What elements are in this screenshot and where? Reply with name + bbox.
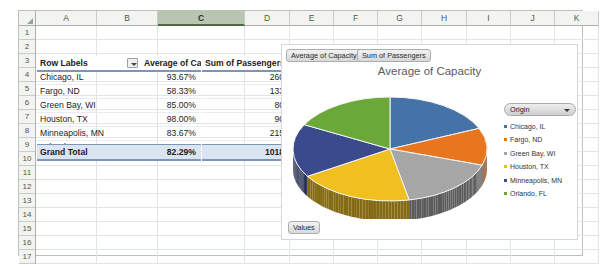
pivot-chart[interactable]: Average of Capacity Sum of Passengers Av… <box>281 44 578 240</box>
row-header-9[interactable]: 9 <box>19 138 36 152</box>
grid-cell[interactable] <box>378 250 422 264</box>
grid-cell[interactable] <box>97 40 158 54</box>
pie-slice-side <box>463 182 465 203</box>
column-header-a[interactable]: A <box>36 11 97 26</box>
grid-cell[interactable] <box>158 208 245 222</box>
pie-slice-side <box>309 178 311 199</box>
grid-cell[interactable] <box>245 250 290 264</box>
pie-slice-side <box>480 166 481 187</box>
legend-swatch-icon <box>504 152 507 155</box>
row-header-14[interactable]: 14 <box>19 208 36 222</box>
legend-item[interactable]: Minneapolis, MN <box>504 177 576 184</box>
pie-chart-graphic[interactable] <box>288 87 493 219</box>
column-header-j[interactable]: J <box>511 11 555 26</box>
grid-cell[interactable] <box>97 194 158 208</box>
grid-cell[interactable] <box>97 166 158 180</box>
column-header-h[interactable]: H <box>422 11 467 26</box>
field-button-average-capacity[interactable]: Average of Capacity <box>286 49 362 62</box>
row-header-4[interactable]: 4 <box>19 68 36 82</box>
pie-slice-side <box>316 183 318 204</box>
grid-cell[interactable] <box>158 26 245 40</box>
pie-slice-side <box>318 184 320 205</box>
legend-field-origin[interactable]: Origin <box>504 103 576 116</box>
row-header-6[interactable]: 6 <box>19 96 36 110</box>
column-header-i[interactable]: I <box>467 11 511 26</box>
grid-cell[interactable] <box>555 26 599 40</box>
legend-item[interactable]: Green Bay, WI <box>504 150 576 157</box>
row-header-2[interactable]: 2 <box>19 40 36 54</box>
column-header-f[interactable]: F <box>334 11 378 26</box>
row-header-3[interactable]: 3 <box>19 54 36 68</box>
grid-cell[interactable] <box>97 236 158 250</box>
grid-cell[interactable] <box>158 180 245 194</box>
pie-slice-side <box>389 201 392 219</box>
grid-cell[interactable] <box>36 250 97 264</box>
legend-item[interactable]: Chicago, IL <box>504 123 576 130</box>
row-header-5[interactable]: 5 <box>19 82 36 96</box>
grid-cell[interactable] <box>158 166 245 180</box>
grid-cell[interactable] <box>158 250 245 264</box>
grid-cell[interactable] <box>36 40 97 54</box>
grid-cell[interactable] <box>36 26 97 40</box>
grid-cell[interactable] <box>36 194 97 208</box>
pie-slice-side <box>312 180 314 201</box>
grid-cell[interactable] <box>97 180 158 194</box>
grid-cell[interactable] <box>467 250 511 264</box>
grid-cell[interactable] <box>245 26 290 40</box>
grid-cell[interactable] <box>290 26 334 40</box>
column-header-b[interactable]: B <box>97 11 158 26</box>
row-header-11[interactable]: 11 <box>19 166 36 180</box>
grid-cell[interactable] <box>378 26 422 40</box>
pie-slice-side <box>298 165 299 186</box>
grid-cell[interactable] <box>158 222 245 236</box>
column-header-k[interactable]: K <box>555 11 599 26</box>
legend-item-label: Orlando, FL <box>510 190 547 197</box>
row-header-17[interactable]: 17 <box>19 250 36 264</box>
grid-cell[interactable] <box>290 250 334 264</box>
values-button[interactable]: Values <box>288 221 320 234</box>
grid-cell[interactable] <box>36 222 97 236</box>
grid-cell[interactable] <box>334 250 378 264</box>
row-header-15[interactable]: 15 <box>19 222 36 236</box>
grid-cell[interactable] <box>97 26 158 40</box>
row-header-1[interactable]: 1 <box>19 26 36 40</box>
column-header-c[interactable]: C <box>158 11 245 26</box>
grid-cell[interactable] <box>334 26 378 40</box>
pie-slice-side <box>465 181 467 202</box>
row-header-8[interactable]: 8 <box>19 124 36 138</box>
chart-legend[interactable]: Origin Chicago, ILFargo, NDGreen Bay, WI… <box>504 103 576 197</box>
grid-cell[interactable] <box>511 250 555 264</box>
grid-cell[interactable] <box>555 250 599 264</box>
pie-slice-side <box>302 170 303 191</box>
column-header-d[interactable]: D <box>245 11 290 26</box>
grid-cell[interactable] <box>467 26 511 40</box>
row-header-16[interactable]: 16 <box>19 236 36 250</box>
column-header-g[interactable]: G <box>378 11 422 26</box>
field-button-sum-passengers[interactable]: Sum of Passengers <box>357 49 431 62</box>
grid-cell[interactable] <box>158 194 245 208</box>
grid-cell[interactable] <box>36 236 97 250</box>
row-header-10[interactable]: 10 <box>19 152 36 166</box>
grid-cell[interactable] <box>158 40 245 54</box>
filter-dropdown-icon[interactable] <box>127 58 138 68</box>
grid-cell[interactable] <box>97 250 158 264</box>
grid-cell[interactable] <box>36 208 97 222</box>
pie-slice-side <box>478 169 479 190</box>
column-header-e[interactable]: E <box>290 11 334 26</box>
grid-cell[interactable] <box>36 166 97 180</box>
row-header-7[interactable]: 7 <box>19 110 36 124</box>
grid-cell[interactable] <box>422 26 467 40</box>
legend-item[interactable]: Orlando, FL <box>504 190 576 197</box>
grid-cell[interactable] <box>36 180 97 194</box>
legend-item[interactable]: Fargo, ND <box>504 136 576 143</box>
grid-cell[interactable] <box>422 250 467 264</box>
grid-cell[interactable] <box>158 236 245 250</box>
grid-cell[interactable] <box>511 26 555 40</box>
pie-slice-side <box>460 184 462 205</box>
legend-item[interactable]: Houston, TX <box>504 163 576 170</box>
grid-cell[interactable] <box>97 222 158 236</box>
row-header-12[interactable]: 12 <box>19 180 36 194</box>
pie-slice-side <box>462 183 464 204</box>
row-header-13[interactable]: 13 <box>19 194 36 208</box>
grid-cell[interactable] <box>97 208 158 222</box>
